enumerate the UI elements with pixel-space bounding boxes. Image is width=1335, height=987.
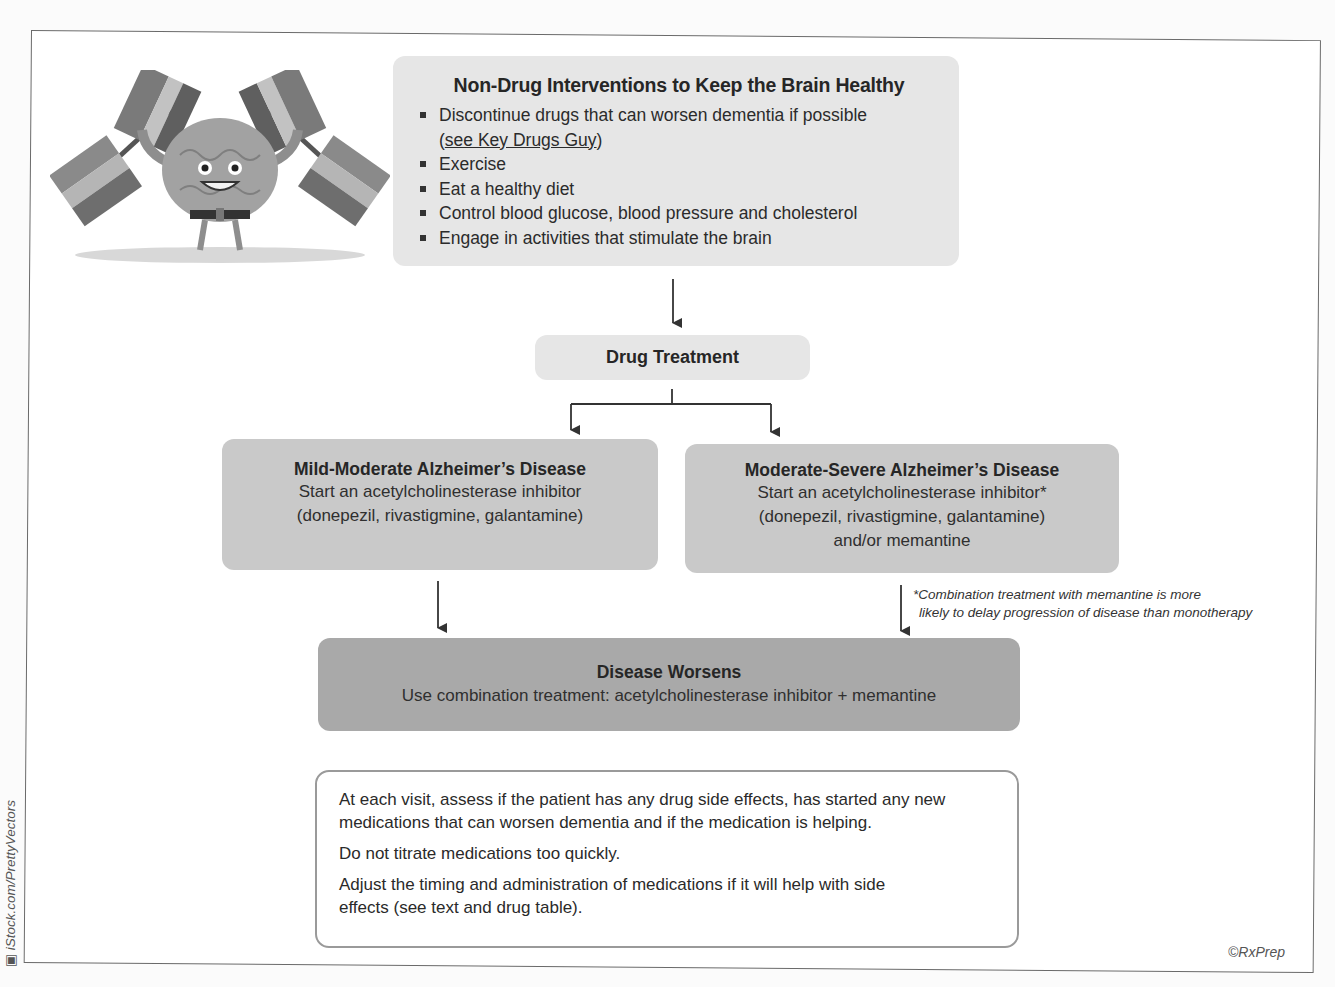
- moderate-severe-drugs: (donepezil, rivastigmine, galantamine): [685, 505, 1119, 529]
- combination-footnote: *Combination treatment with memantine is…: [913, 586, 1252, 622]
- list-item: Control blood glucose, blood pressure an…: [439, 201, 939, 226]
- disease-worsens-box: Disease Worsens Use combination treatmen…: [318, 638, 1020, 731]
- disease-worsens-title: Disease Worsens: [318, 660, 1020, 684]
- drug-treatment-box: Drug Treatment: [535, 335, 810, 380]
- mild-moderate-line: Start an acetylcholinesterase inhibitor: [222, 480, 658, 504]
- moderate-severe-line: Start an acetylcholinesterase inhibitor*: [685, 481, 1119, 505]
- footnote-line: likely to delay progression of disease t…: [913, 604, 1252, 622]
- image-credit: ▣iStock.com/PrettyVectors: [2, 800, 18, 967]
- mild-moderate-box: Mild-Moderate Alzheimer’s Disease Start …: [222, 439, 658, 570]
- brain-weightlifter-illustration: [50, 70, 390, 270]
- moderate-severe-memantine: and/or memantine: [685, 529, 1119, 553]
- monitoring-paragraph: At each visit, assess if the patient has…: [339, 788, 997, 834]
- list-item: Discontinue drugs that can worsen dement…: [439, 103, 939, 152]
- non-drug-interventions-box: Non-Drug Interventions to Keep the Brain…: [393, 56, 959, 266]
- moderate-severe-title: Moderate-Severe Alzheimer’s Disease: [685, 460, 1119, 481]
- mild-moderate-title: Mild-Moderate Alzheimer’s Disease: [222, 459, 658, 480]
- copyright-label: ©RxPrep: [1228, 944, 1285, 960]
- monitoring-paragraph: Do not titrate medications too quickly.: [339, 842, 997, 865]
- key-drugs-guy-link[interactable]: see Key Drugs Guy: [445, 130, 597, 150]
- camera-icon: ▣: [3, 954, 18, 967]
- moderate-severe-box: Moderate-Severe Alzheimer’s Disease Star…: [685, 444, 1119, 573]
- non-drug-title: Non-Drug Interventions to Keep the Brain…: [419, 74, 939, 97]
- monitoring-box: At each visit, assess if the patient has…: [315, 770, 1019, 948]
- footnote-line: *Combination treatment with memantine is…: [913, 586, 1252, 604]
- list-item: Exercise: [439, 152, 939, 177]
- list-item: Engage in activities that stimulate the …: [439, 226, 939, 251]
- non-drug-list: Discontinue drugs that can worsen dement…: [419, 103, 939, 250]
- list-item: Eat a healthy diet: [439, 177, 939, 202]
- list-item-text: Discontinue drugs that can worsen dement…: [439, 105, 867, 125]
- monitoring-paragraph: Adjust the timing and administration of …: [339, 873, 997, 919]
- disease-worsens-line: Use combination treatment: acetylcholine…: [318, 684, 1020, 708]
- mild-moderate-drugs: (donepezil, rivastigmine, galantamine): [222, 504, 658, 528]
- image-credit-text: iStock.com/PrettyVectors: [3, 800, 18, 950]
